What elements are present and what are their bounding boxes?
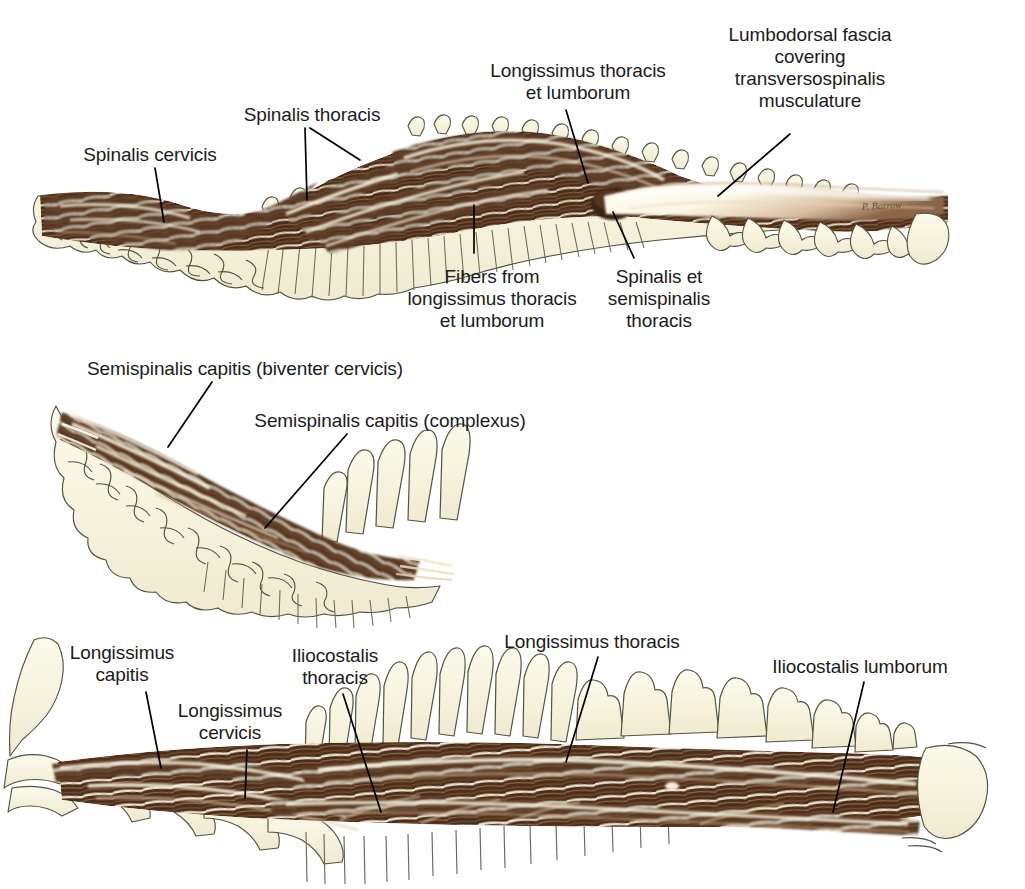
label-line: thoracis <box>302 667 368 688</box>
label-line: Longissimus <box>178 700 283 721</box>
label-spinalis_et_semispinalis_thoracis: Spinalis etsemispinalisthoracis <box>608 266 710 332</box>
label-line: et lumborum <box>440 310 545 331</box>
label-longissimus_thoracis_et_lumborum: Longissimus thoraciset lumborum <box>490 60 665 104</box>
label-longissimus_thoracis: Longissimus thoracis <box>504 631 679 653</box>
label-line: semispinalis <box>608 288 710 309</box>
label-lumbodorsal_fascia: Lumbodorsal fasciacoveringtransversospin… <box>729 24 892 112</box>
label-longissimus_capitis: Longissimuscapitis <box>70 642 175 686</box>
label-line: thoracis <box>626 310 692 331</box>
label-longissimus_cervicis: Longissimuscervicis <box>178 700 283 744</box>
label-iliocostalis_lumborum: Iliocostalis lumborum <box>772 656 947 678</box>
label-line: Lumbodorsal fascia <box>729 24 892 45</box>
label-line: Spinalis thoracis <box>244 104 381 125</box>
label-line: covering <box>774 46 845 67</box>
panel-middle-artwork <box>51 406 470 628</box>
label-line: Semispinalis capitis (biventer cervicis) <box>87 358 403 379</box>
label-line: Fibers from <box>445 266 540 287</box>
label-line: Spinalis et <box>616 266 703 287</box>
illustration-page: P. Barrow <box>0 0 1025 889</box>
label-line: longissimus thoracis <box>407 288 576 309</box>
label-line: transversospinalis <box>735 68 885 89</box>
label-line: cervicis <box>199 722 262 743</box>
label-line: Longissimus <box>70 642 175 663</box>
anatomy-figure: P. Barrow <box>0 0 1025 889</box>
label-spinalis_cervicis: Spinalis cervicis <box>83 144 216 166</box>
label-line: Longissimus thoracis <box>490 60 665 81</box>
label-line: Iliocostalis <box>292 645 378 666</box>
label-spinalis_thoracis: Spinalis thoracis <box>244 104 381 126</box>
label-line: Spinalis cervicis <box>83 144 216 165</box>
leader-line-spinalis_thoracis-2 <box>310 128 360 160</box>
label-line: musculature <box>759 90 861 111</box>
label-line: et lumborum <box>526 82 631 103</box>
artist-signature: P. Barrow <box>861 199 903 212</box>
label-semispinalis_capitis_biventer: Semispinalis capitis (biventer cervicis) <box>87 358 403 380</box>
label-line: capitis <box>95 664 148 685</box>
middle-spinous-processes <box>322 424 470 542</box>
bottom-lumbar-processes <box>576 670 917 752</box>
label-line: Semispinalis capitis (complexus) <box>254 410 525 431</box>
label-semispinalis_capitis_complexus: Semispinalis capitis (complexus) <box>254 410 525 432</box>
label-line: Iliocostalis lumborum <box>772 656 947 677</box>
label-line: Longissimus thoracis <box>504 631 679 652</box>
leader-line-semispinalis_capitis_biventer <box>168 382 212 447</box>
label-fibers_from_longissimus: Fibers fromlongissimus thoraciset lumbor… <box>407 266 576 332</box>
label-iliocostalis_thoracis: Iliocostalisthoracis <box>292 645 378 689</box>
